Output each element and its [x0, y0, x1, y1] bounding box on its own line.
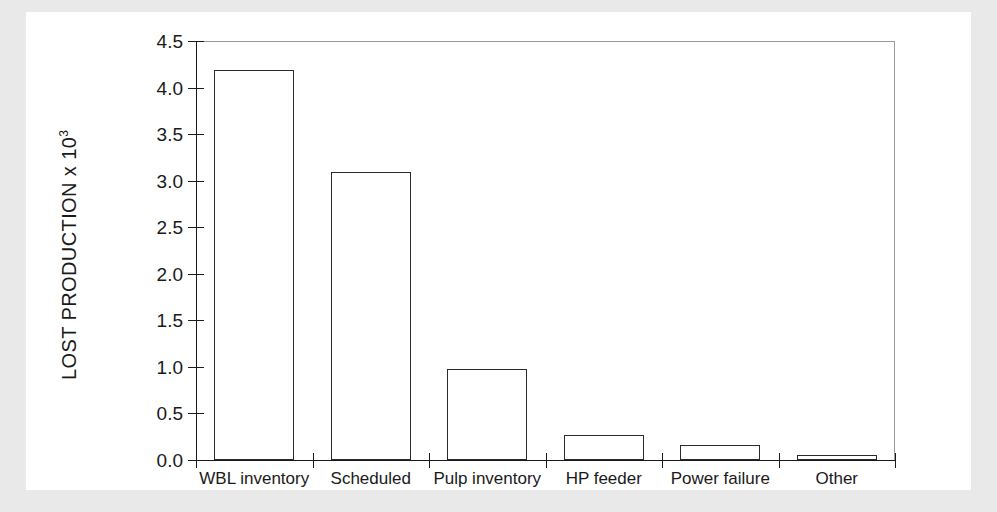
x-tick-mark: [429, 453, 430, 468]
y-tick-mark: [188, 181, 204, 182]
x-tick-label: WBL inventory: [196, 469, 313, 489]
y-tick-mark: [188, 367, 204, 368]
bar: [797, 455, 877, 460]
x-tick-label: Other: [779, 469, 896, 489]
y-tick-label: 1.0: [123, 358, 183, 377]
y-axis-title: LOST PRODUCTION x 103: [57, 85, 81, 425]
y-tick-mark: [188, 41, 204, 42]
y-tick-mark: [188, 320, 204, 321]
y-axis-line: [196, 41, 197, 461]
bar-chart-figure: LOST PRODUCTION x 103 0.00.51.01.52.02.5…: [0, 0, 997, 512]
y-axis-title-exponent: 3: [57, 130, 71, 137]
y-tick-label: 0.5: [123, 404, 183, 423]
y-tick-label: 2.0: [123, 265, 183, 284]
bar: [564, 435, 644, 460]
x-tick-label: Scheduled: [313, 469, 430, 489]
y-tick-mark: [188, 88, 204, 89]
bar: [214, 70, 294, 460]
y-tick-mark: [188, 134, 204, 135]
y-tick-mark: [188, 413, 204, 414]
y-tick-label: 4.5: [123, 32, 183, 51]
y-tick-label: 1.5: [123, 311, 183, 330]
x-tick-mark: [196, 453, 197, 468]
x-tick-mark: [546, 453, 547, 468]
x-tick-label: HP feeder: [546, 469, 663, 489]
y-tick-mark: [188, 227, 204, 228]
x-tick-label: Pulp inventory: [429, 469, 546, 489]
y-axis-title-text: LOST PRODUCTION x 10: [58, 137, 80, 380]
bar: [680, 445, 760, 460]
plot-frame: [196, 41, 895, 460]
x-tick-mark: [895, 453, 896, 468]
y-tick-mark: [188, 274, 204, 275]
y-tick-label: 3.0: [123, 172, 183, 191]
y-tick-label: 3.5: [123, 125, 183, 144]
x-tick-mark: [662, 453, 663, 468]
bar: [447, 369, 527, 460]
bar: [331, 172, 411, 460]
y-tick-label: 2.5: [123, 218, 183, 237]
x-tick-mark: [779, 453, 780, 468]
y-tick-label: 4.0: [123, 79, 183, 98]
x-tick-label: Power failure: [662, 469, 779, 489]
page-background: LOST PRODUCTION x 103 0.00.51.01.52.02.5…: [0, 0, 997, 512]
x-tick-mark: [313, 453, 314, 468]
y-tick-label: 0.0: [123, 451, 183, 470]
